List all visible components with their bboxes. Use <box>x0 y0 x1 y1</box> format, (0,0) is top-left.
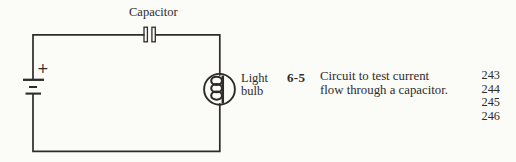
figure-caption-line-2: flow through a capacitor. <box>320 84 470 98</box>
page-number: 245 <box>469 96 500 110</box>
wire-path <box>33 35 220 152</box>
page-number: 244 <box>469 83 500 97</box>
capacitor-icon <box>144 27 155 42</box>
page-number-list: 243 244 245 246 <box>469 69 500 124</box>
page-number: 246 <box>469 110 500 124</box>
light-bulb-label: Light bulb <box>241 72 268 99</box>
light-bulb-icon <box>204 74 235 105</box>
battery-plus-label: + <box>37 62 49 75</box>
light-bulb-label-line-1: Light <box>241 72 268 85</box>
page-number: 243 <box>469 69 500 83</box>
figure-caption: Circuit to test current flow through a c… <box>320 70 470 98</box>
figure-number: 6-5 <box>287 70 305 86</box>
light-bulb-label-line-2: bulb <box>241 85 268 98</box>
scanned-page: Capacitor + Light bulb 6-5 Circuit to te… <box>0 0 516 162</box>
capacitor-label: Capacitor <box>129 6 178 19</box>
battery-icon <box>23 80 44 94</box>
figure-caption-line-1: Circuit to test current <box>320 70 470 84</box>
